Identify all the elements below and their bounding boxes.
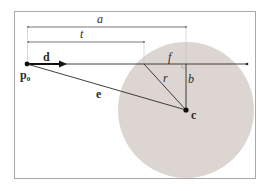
point-c	[183, 107, 188, 112]
label-d: d	[43, 50, 50, 64]
ray-sphere-intersection-diagram: a t d p0 f r b e c	[0, 0, 270, 191]
ray-end-dot	[246, 63, 249, 66]
label-r: r	[163, 71, 168, 85]
label-c: c	[191, 108, 197, 122]
point-p0	[25, 62, 30, 67]
label-a: a	[97, 12, 103, 26]
label-b: b	[188, 72, 194, 86]
label-e: e	[96, 87, 102, 101]
